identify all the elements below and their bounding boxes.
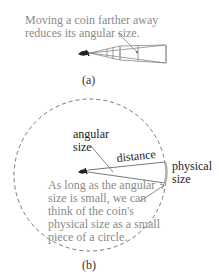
caption-b: (b)	[82, 259, 96, 272]
note-line-5: piece of a circle.	[48, 231, 127, 244]
caption-a: (a)	[82, 74, 95, 87]
eye-icon-a	[78, 50, 90, 56]
angular-size-label-2: size	[73, 141, 92, 154]
coin-far	[165, 45, 167, 63]
coin-near	[119, 46, 121, 60]
coin-arc	[165, 162, 167, 183]
angular-size-pointer	[91, 146, 113, 172]
sightline-cones-a	[90, 45, 166, 63]
annotation-line-2: reduces its angular size.	[25, 27, 140, 40]
eye-icon-b	[78, 168, 88, 174]
physical-size-label-2: size	[172, 173, 191, 186]
